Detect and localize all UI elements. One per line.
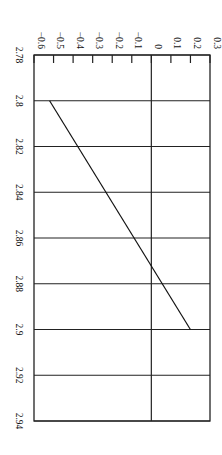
line-chart: −0.6−0.5−0.4−0.3−0.2−0.100.10.20.3 2.782… (0, 0, 222, 455)
value-tick-label: −0.4 (75, 32, 85, 49)
value-tick-label: −0.6 (36, 32, 46, 49)
x-tick-label: 2.92 (14, 367, 24, 384)
x-tick-label: 2.8 (14, 95, 24, 107)
value-tick-label: −0.1 (133, 32, 143, 49)
value-tick-label: 0 (153, 44, 163, 49)
x-tick-label: 2.88 (14, 275, 24, 292)
x-tick-label: 2.9 (14, 324, 24, 336)
x-tick-label: 2.82 (14, 138, 24, 155)
value-tick-label: 0.1 (172, 37, 182, 49)
x-tick-label: 2.94 (14, 413, 24, 430)
x-axis-labels: 2.782.82.822.842.862.882.92.922.94 (14, 47, 24, 430)
value-axis-labels: −0.6−0.5−0.4−0.3−0.2−0.100.10.20.3 (36, 32, 222, 49)
value-tick-label: −0.2 (114, 32, 124, 49)
value-tick-label: 0.3 (212, 37, 222, 49)
value-tick-label: −0.5 (55, 32, 65, 49)
value-tick-label: 0.2 (192, 37, 202, 49)
x-tick-label: 2.78 (14, 47, 24, 64)
value-ticks (34, 55, 210, 63)
value-tick-label: −0.3 (94, 32, 104, 49)
x-tick-label: 2.84 (14, 184, 24, 201)
data-line (50, 101, 191, 330)
x-tick-label: 2.86 (14, 230, 24, 247)
grid-lines (34, 55, 210, 421)
